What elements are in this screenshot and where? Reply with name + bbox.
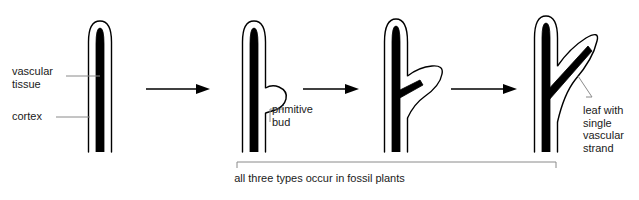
stage-4-vascular-strand bbox=[542, 23, 550, 152]
label-leaf-with-single-vascular-strand: leaf with single vascular strand bbox=[583, 104, 624, 154]
leader-leaf-strand bbox=[578, 76, 592, 97]
diagram-canvas bbox=[0, 0, 639, 200]
stage-2-axis-with-primitive-bud bbox=[243, 21, 287, 152]
bracket-caption: all three types occur in fossil plants bbox=[0, 172, 639, 184]
arrow-stage2-to-stage3 bbox=[303, 84, 359, 94]
stage-3-vascular-strand bbox=[392, 26, 400, 152]
stage-2-vascular-strand bbox=[250, 28, 258, 152]
label-cortex: cortex bbox=[12, 110, 42, 123]
stage-3-lateral-outgrowth bbox=[408, 66, 443, 118]
arrow-stage1-to-stage2 bbox=[146, 84, 210, 94]
leaf-evolution-diagram: vascular tissue cortex primitive bud lea… bbox=[0, 0, 639, 200]
stage-3-axis-with-enlarged-outgrowth bbox=[385, 19, 443, 152]
stage-1-vascular-strand bbox=[96, 28, 104, 152]
arrow-stage3-to-stage4 bbox=[451, 84, 517, 94]
fossil-plants-bracket bbox=[237, 162, 556, 168]
stage-1-simple-axis bbox=[89, 21, 112, 152]
label-primitive-bud: primitive bud bbox=[272, 103, 313, 128]
label-vascular-tissue: vascular tissue bbox=[12, 65, 53, 90]
